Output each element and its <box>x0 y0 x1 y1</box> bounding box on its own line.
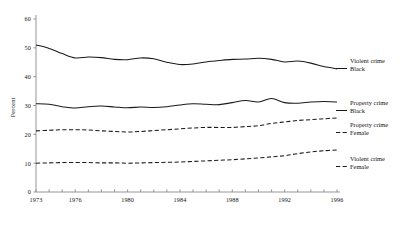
legend-swatch-3 <box>336 157 347 166</box>
x-axis-tick-label: 1973 <box>23 196 49 203</box>
legend-label-line1-2: Property crime <box>350 121 388 128</box>
legend-label-1: Property crimeBlack <box>350 99 388 114</box>
legend-entry-3: Violent crimeFemale <box>336 155 385 170</box>
legend-swatch-2 <box>336 123 347 132</box>
legend-entry-0: Violent crimeBlack <box>336 57 385 72</box>
y-axis-tick-label: 40 <box>17 73 31 80</box>
legend-label-2: Property crimeFemale <box>350 121 388 136</box>
legend-entry-1: Property crimeBlack <box>336 99 388 114</box>
y-axis-tick-label: 20 <box>17 131 31 138</box>
legend-label-line2-0: Black <box>350 65 385 73</box>
legend-label-line1-0: Violent crime <box>350 57 385 64</box>
series-line-0 <box>36 45 337 69</box>
chart-series <box>36 45 337 163</box>
y-axis-title: Percent <box>9 88 16 128</box>
legend-label-line2-1: Black <box>350 107 388 115</box>
legend-label-line2-2: Female <box>350 129 388 137</box>
x-axis-tick-label: 1984 <box>167 196 193 203</box>
legend-entry-2: Property crimeFemale <box>336 121 388 136</box>
chart-figure: 0102030405060197319761980198419881992199… <box>0 0 414 232</box>
legend-label-0: Violent crimeBlack <box>350 57 385 72</box>
series-line-3 <box>36 150 337 163</box>
x-axis-tick-label: 1976 <box>62 196 88 203</box>
x-axis-tick-label: 1996 <box>324 196 350 203</box>
y-axis-tick-label: 30 <box>17 102 31 109</box>
legend-swatch-0 <box>336 59 347 68</box>
legend-label-line1-3: Violent crime <box>350 155 385 162</box>
legend-label-3: Violent crimeFemale <box>350 155 385 170</box>
legend-swatch-1 <box>336 101 347 110</box>
x-axis-tick-label: 1988 <box>219 196 245 203</box>
x-axis-tick-label: 1992 <box>272 196 298 203</box>
legend-label-line2-3: Female <box>350 163 385 171</box>
series-line-2 <box>36 118 337 132</box>
y-axis-tick-label: 60 <box>17 15 31 22</box>
x-axis-tick-label: 1980 <box>115 196 141 203</box>
legend-label-line1-1: Property crime <box>350 99 388 106</box>
y-axis-tick-label: 50 <box>17 44 31 51</box>
y-axis-tick-label: 0 <box>17 188 31 195</box>
y-axis-tick-label: 10 <box>17 160 31 167</box>
series-line-1 <box>36 99 337 109</box>
